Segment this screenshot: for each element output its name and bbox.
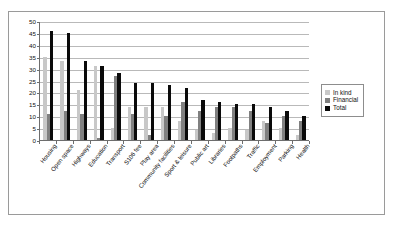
plot-area: 50454035302520151050 bbox=[39, 22, 309, 141]
x-axis-tick-mark bbox=[309, 141, 310, 144]
bar-total bbox=[50, 31, 53, 140]
legend-item[interactable]: In kind bbox=[325, 90, 358, 96]
y-axis-tick-label: 20 bbox=[29, 90, 36, 96]
x-axis-labels: HousingOpen spaceHighwaysEducationTransp… bbox=[39, 143, 309, 213]
bar-total bbox=[269, 107, 272, 140]
x-axis-label: Health bbox=[296, 143, 312, 161]
legend-item[interactable]: Financial bbox=[325, 97, 358, 103]
y-axis-tick-label: 25 bbox=[29, 78, 36, 84]
bar-group bbox=[175, 22, 192, 140]
bar-total bbox=[84, 61, 87, 140]
bar-group bbox=[292, 22, 309, 140]
bar-group bbox=[225, 22, 242, 140]
bar-total bbox=[201, 100, 204, 140]
bar-group bbox=[74, 22, 91, 140]
legend-label: In kind bbox=[333, 90, 352, 96]
bar-group bbox=[90, 22, 107, 140]
bar-total bbox=[252, 104, 255, 140]
legend: In kindFinancialTotal bbox=[321, 84, 364, 117]
bar-group bbox=[124, 22, 141, 140]
bar-group bbox=[242, 22, 259, 140]
bar-group bbox=[107, 22, 124, 140]
bar-total bbox=[235, 104, 238, 140]
bar-total bbox=[134, 83, 137, 140]
bar-groups bbox=[40, 22, 309, 140]
y-axis-tick-label: 15 bbox=[29, 102, 36, 108]
bar-group bbox=[259, 22, 276, 140]
legend-swatch-inkind bbox=[325, 90, 330, 95]
y-axis-tick-label: 40 bbox=[29, 43, 36, 49]
y-axis-tick-label: 0 bbox=[33, 138, 36, 144]
legend-swatch-total bbox=[325, 106, 330, 111]
bar-total bbox=[117, 73, 120, 140]
y-axis-tick-label: 30 bbox=[29, 66, 36, 72]
bar-group bbox=[141, 22, 158, 140]
bar-total bbox=[168, 85, 171, 140]
bar-group bbox=[191, 22, 208, 140]
bar-total bbox=[151, 83, 154, 140]
y-axis-tick-label: 35 bbox=[29, 55, 36, 61]
legend-item[interactable]: Total bbox=[325, 105, 358, 111]
x-axis-label: Parking bbox=[277, 143, 295, 163]
bar-group bbox=[40, 22, 57, 140]
bar-total bbox=[100, 66, 103, 140]
legend-label: Total bbox=[333, 105, 346, 111]
legend-label: Financial bbox=[333, 97, 358, 103]
bar-total bbox=[285, 111, 288, 140]
y-axis-tick-label: 5 bbox=[33, 126, 36, 132]
y-axis-tick-label: 45 bbox=[29, 31, 36, 37]
bar-group bbox=[208, 22, 225, 140]
x-axis-label: Traffic bbox=[246, 143, 261, 160]
bar-group bbox=[57, 22, 74, 140]
bar-total bbox=[185, 88, 188, 140]
bar-total bbox=[302, 116, 305, 140]
bar-inkind bbox=[94, 66, 97, 140]
y-axis-tick-label: 50 bbox=[29, 19, 36, 25]
bar-total bbox=[67, 33, 70, 140]
bar-group bbox=[158, 22, 175, 140]
legend-swatch-financial bbox=[325, 98, 330, 103]
bar-group bbox=[275, 22, 292, 140]
bar-total bbox=[218, 102, 221, 140]
y-axis-tick-label: 10 bbox=[29, 114, 36, 120]
chart-frame: 50454035302520151050 HousingOpen spaceHi… bbox=[8, 11, 385, 215]
